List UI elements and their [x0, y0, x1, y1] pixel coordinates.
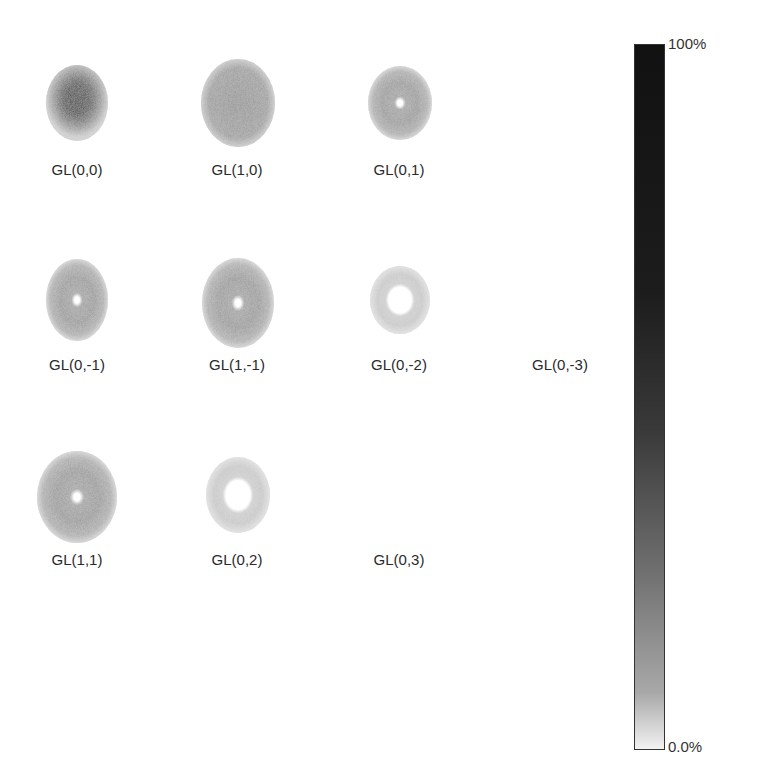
mode-label-gl-1-1: GL(1,1)	[52, 551, 103, 568]
mode-label-gl-1-0: GL(1,0)	[212, 161, 263, 178]
mode-spot-gl-1-1	[37, 451, 117, 543]
mode-spot-gl-1-0	[201, 59, 275, 147]
colorbar	[634, 44, 665, 750]
mode-label-gl-0-1: GL(0,1)	[374, 161, 425, 178]
mode-spot-gl-0-0	[46, 65, 108, 141]
mode-label-gl-0-2: GL(0,2)	[212, 551, 263, 568]
mode-spot-gl-0-1	[46, 259, 108, 341]
mode-label-gl-0-3: GL(0,3)	[374, 551, 425, 568]
mode-spot-gl-1-1	[202, 258, 274, 348]
colorbar-max-label: 100%	[668, 35, 706, 52]
mode-label-gl-0-1: GL(0,-1)	[49, 356, 105, 373]
mode-spot-gl-0-2	[370, 266, 430, 334]
mode-label-gl-1-1: GL(1,-1)	[209, 356, 265, 373]
mode-label-gl-0-2: GL(0,-2)	[371, 356, 427, 373]
mode-spot-gl-0-1	[368, 66, 432, 140]
mode-spot-gl-0-2	[206, 457, 270, 533]
mode-label-gl-0-3: GL(0,-3)	[532, 356, 588, 373]
colorbar-min-label: 0.0%	[668, 738, 702, 755]
mode-label-gl-0-0: GL(0,0)	[52, 161, 103, 178]
